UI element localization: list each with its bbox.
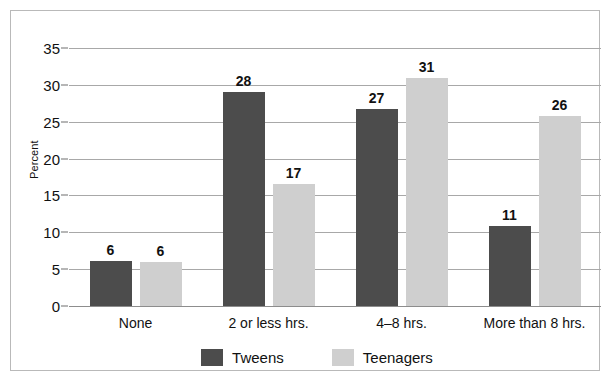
bar-value-label: 31 bbox=[419, 60, 435, 74]
bar-group: 66None bbox=[69, 48, 202, 306]
plot-area: 05101520253035 66None28172 or less hrs.2… bbox=[69, 48, 601, 306]
legend-label: Teenagers bbox=[363, 350, 433, 365]
y-tick-label-10: 10 bbox=[43, 225, 69, 240]
bar-value-label: 6 bbox=[157, 244, 165, 258]
bar-group: 28172 or less hrs. bbox=[202, 48, 335, 306]
legend-swatch-tweens bbox=[201, 349, 223, 366]
bar-value-label: 26 bbox=[552, 98, 568, 112]
chart-frame: Percent 05101520253035 66None28172 or le… bbox=[10, 10, 600, 371]
y-tick-label-30: 30 bbox=[43, 77, 69, 92]
bar-group: 27314–8 hrs. bbox=[335, 48, 468, 306]
bar-tweens-0[interactable]: 6 bbox=[90, 261, 132, 306]
bar-tweens-2[interactable]: 27 bbox=[356, 109, 398, 306]
x-axis-category-label: 4–8 hrs. bbox=[376, 315, 427, 331]
legend-label: Tweens bbox=[232, 350, 284, 365]
bar-group: 1126More than 8 hrs. bbox=[468, 48, 601, 306]
bar-teenagers-2[interactable]: 31 bbox=[406, 78, 448, 307]
x-axis-category-label: 2 or less hrs. bbox=[228, 315, 308, 331]
bar-teenagers-1[interactable]: 17 bbox=[273, 184, 315, 306]
legend-swatch-teenagers bbox=[332, 349, 354, 366]
x-axis-category-label: None bbox=[119, 315, 152, 331]
bar-value-label: 17 bbox=[286, 166, 302, 180]
y-tick-label-0: 0 bbox=[52, 299, 69, 314]
legend-item-tweens[interactable]: Tweens bbox=[201, 349, 284, 366]
bar-value-label: 6 bbox=[107, 243, 115, 257]
bar-value-label: 28 bbox=[236, 74, 252, 88]
bar-value-label: 11 bbox=[502, 208, 517, 222]
bar-teenagers-0[interactable]: 6 bbox=[140, 262, 182, 306]
bar-value-label: 27 bbox=[369, 91, 385, 105]
bar-tweens-3[interactable]: 11 bbox=[489, 226, 531, 306]
bar-teenagers-3[interactable]: 26 bbox=[539, 116, 581, 306]
y-axis-label: Percent bbox=[28, 140, 40, 179]
y-tick-label-25: 25 bbox=[43, 114, 69, 129]
bar-tweens-1[interactable]: 28 bbox=[223, 92, 265, 306]
y-tick-label-5: 5 bbox=[52, 262, 69, 277]
chart-legend: TweensTeenagers bbox=[11, 349, 612, 366]
legend-item-teenagers[interactable]: Teenagers bbox=[332, 349, 433, 366]
y-tick-label-35: 35 bbox=[43, 41, 69, 56]
x-axis-category-label: More than 8 hrs. bbox=[484, 315, 586, 331]
y-tick-label-20: 20 bbox=[43, 151, 69, 166]
y-tick-label-15: 15 bbox=[43, 188, 69, 203]
gridline-0 bbox=[69, 306, 601, 307]
chart-figure: Percent 05101520253035 66None28172 or le… bbox=[0, 0, 612, 383]
